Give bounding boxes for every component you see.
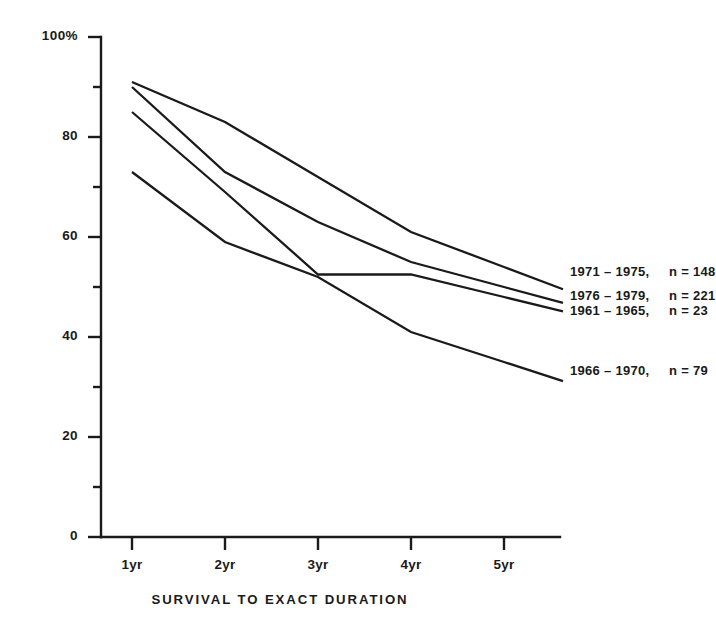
x-axis-title: SURVIVAL TO EXACT DURATION [0,592,560,607]
y-tick-label-100: 100% [12,28,78,43]
legend-entry-1961-1965: 1961 – 1965, n = 23 [570,303,708,318]
series-line-1971-1975 [132,82,563,289]
x-tick-label-4yr: 4yr [381,557,441,572]
legend-count-label: n = 148 [669,264,716,279]
legend-period-label: 1966 – 1970, [570,363,656,378]
x-tick-label-1yr: 1yr [102,557,162,572]
y-tick-label-0: 0 [12,528,78,543]
x-tick-label-3yr: 3yr [288,557,348,572]
legend-count-label: n = 221 [669,288,716,303]
legend-count-label: n = 23 [669,303,708,318]
legend-entry-1966-1970: 1966 – 1970, n = 79 [570,363,708,378]
legend-count-label: n = 79 [669,363,708,378]
legend-period-label: 1961 – 1965, [570,303,656,318]
legend-entry-1976-1979: 1976 – 1979, n = 221 [570,288,716,303]
series-line-1961-1965 [132,112,563,311]
legend-entry-1971-1975: 1971 – 1975, n = 148 [570,264,716,279]
legend-period-label: 1971 – 1975, [570,264,656,279]
legend-period-label: 1976 – 1979, [570,288,656,303]
x-tick-label-5yr: 5yr [474,557,534,572]
y-tick-label-40: 40 [12,328,78,343]
y-tick-label-20: 20 [12,428,78,443]
y-tick-label-80: 80 [12,128,78,143]
y-tick-label-60: 60 [12,228,78,243]
series-line-1966-1970 [132,172,563,381]
x-tick-label-2yr: 2yr [195,557,255,572]
x-axis-ticks [132,537,504,550]
